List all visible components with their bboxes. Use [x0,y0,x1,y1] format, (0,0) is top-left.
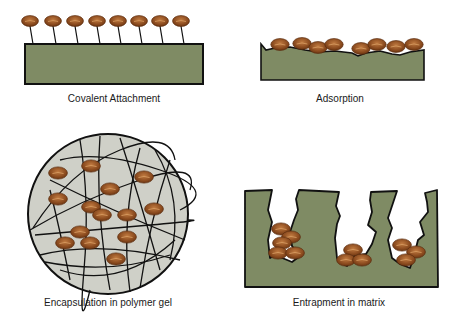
panel-covalent: Covalent Attachment [22,16,204,105]
immobilization-diagram: Covalent Attachment Adsorption [0,0,457,317]
enzymes [22,16,190,27]
panel-encapsulation: Encapsulation in polymer gel [28,134,196,311]
porous-matrix [245,190,438,287]
solid-support [25,44,203,84]
caption-encapsulation: Encapsulation in polymer gel [44,297,172,308]
caption-entrapment: Entrapment in matrix [293,297,385,308]
panel-entrapment: Entrapment in matrix [245,190,438,308]
caption-adsorption: Adsorption [316,93,364,104]
covalent-linkers [30,26,184,44]
caption-covalent: Covalent Attachment [68,93,160,104]
panel-adsorption: Adsorption [261,38,424,104]
